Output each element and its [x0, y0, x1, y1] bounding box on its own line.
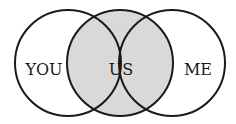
me-label: ME: [184, 60, 212, 79]
venn-diagram: YOU US ME: [0, 0, 236, 124]
venn-svg: YOU US ME: [0, 0, 236, 124]
us-label: US: [109, 60, 133, 79]
you-label: YOU: [24, 60, 62, 79]
